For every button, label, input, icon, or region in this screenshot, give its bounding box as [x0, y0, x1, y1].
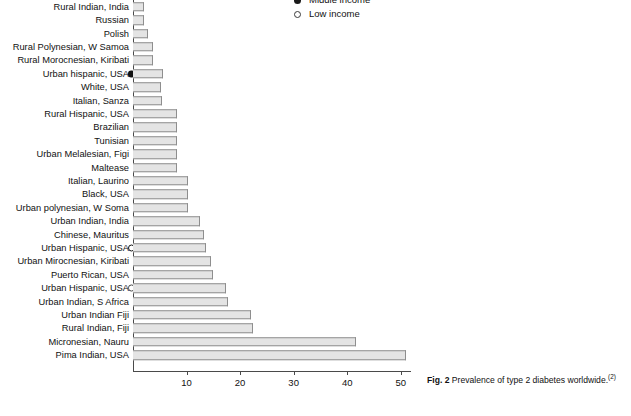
chart-row: Black, USA [0, 189, 420, 201]
x-axis-tick-label: 40 [342, 377, 353, 388]
x-axis-tick-label: 30 [288, 377, 299, 388]
chart-bar [133, 123, 177, 133]
chart-row: Urban Hispanic, USA [0, 242, 420, 254]
chart-bar [133, 82, 161, 92]
chart-row: Urban Indian Fiji [0, 309, 420, 321]
caption-reference: (2) [608, 373, 616, 380]
chart-row: Urban Indian, India [0, 215, 420, 227]
chart-bar [133, 149, 177, 159]
category-label: Urban hispanic, USA [43, 68, 129, 79]
chart-row: Urban hispanic, USA [0, 68, 420, 80]
category-label: Black, USA [82, 189, 129, 200]
chart-row: Urban Hispanic, USA [0, 282, 420, 294]
chart-bar [133, 270, 213, 280]
category-label: Rural Indian, India [54, 1, 129, 12]
category-label: Tunisian [94, 135, 129, 146]
caption-text: Prevalence of type 2 diabetes worldwide. [452, 375, 608, 385]
category-label: Urban Melalesian, Figi [37, 149, 130, 160]
category-label: Urban Mirocnesian, Kiribati [17, 256, 129, 267]
category-label: Urban Indian Fiji [61, 309, 129, 320]
figure-container: Middle income Low income Rural Indian, I… [0, 0, 631, 416]
category-label: Russian [95, 15, 129, 26]
chart-bar [133, 56, 153, 66]
bar-chart-plot-area: Rural Indian, IndiaRussianPolishRural Po… [0, 0, 420, 372]
chart-row: Micronesian, Nauru [0, 336, 420, 348]
category-label: Maltease [91, 162, 129, 173]
chart-bar [133, 15, 144, 25]
x-axis-line [133, 371, 411, 372]
chart-row: Rural Indian, India [0, 1, 420, 13]
chart-row: Urban Melalesian, Figi [0, 148, 420, 160]
chart-row: Italian, Sanza [0, 95, 420, 107]
category-label: Urban Indian, India [50, 216, 129, 227]
category-label: Rural Polynesian, W Samoa [13, 41, 129, 52]
chart-row: Urban polynesian, W Soma [0, 202, 420, 214]
category-label: Puerto Rican, USA [51, 269, 129, 280]
category-label: Pima Indian, USA [56, 350, 129, 361]
x-axis-tick [294, 371, 295, 375]
chart-row: Maltease [0, 162, 420, 174]
chart-row: Italian, Laurino [0, 175, 420, 187]
chart-row: Tunisian [0, 135, 420, 147]
chart-bar [133, 337, 356, 347]
chart-bar [133, 257, 211, 267]
chart-bar [133, 96, 162, 106]
chart-row: Puerto Rican, USA [0, 269, 420, 281]
chart-bar [133, 297, 228, 307]
chart-bar [133, 324, 253, 334]
category-label: Brazilian [93, 122, 129, 133]
chart-row: White, USA [0, 81, 420, 93]
category-label: Italian, Laurino [68, 175, 129, 186]
x-axis-tick [187, 371, 188, 375]
figure-caption: Fig. 2 Prevalence of type 2 diabetes wor… [427, 371, 627, 386]
category-label: Urban Hispanic, USA [41, 283, 129, 294]
x-axis-tick [240, 371, 241, 375]
x-axis-tick-label: 20 [235, 377, 246, 388]
chart-bar [133, 230, 204, 240]
category-label: Urban Indian, S Africa [39, 296, 129, 307]
chart-row: Polish [0, 28, 420, 40]
chart-bar [133, 163, 177, 173]
category-label: Rural Indian, Fiji [62, 323, 129, 334]
chart-row: Pima Indian, USA [0, 349, 420, 361]
chart-bar [133, 2, 144, 12]
chart-bar [133, 190, 188, 200]
chart-bar [133, 42, 153, 52]
chart-bar [133, 69, 163, 79]
category-label: Polish [104, 28, 129, 39]
category-label: Italian, Sanza [73, 95, 129, 106]
chart-bar [133, 109, 177, 119]
x-axis-tick-label: 50 [395, 377, 406, 388]
chart-row: Rural Indian, Fiji [0, 323, 420, 335]
category-label: Rural Hispanic, USA [44, 108, 129, 119]
chart-bar [133, 350, 406, 360]
chart-row: Russian [0, 14, 420, 26]
category-label: Rural Morocnesian, Kiribati [17, 55, 129, 66]
x-axis-tick-label: 10 [181, 377, 192, 388]
x-axis-tick [401, 371, 402, 375]
chart-bar [133, 243, 206, 253]
chart-bar [133, 29, 148, 39]
category-label: Chinese, Mauritus [54, 229, 129, 240]
chart-row: Rural Hispanic, USA [0, 108, 420, 120]
chart-row: Urban Mirocnesian, Kiribati [0, 256, 420, 268]
chart-row: Chinese, Mauritus [0, 229, 420, 241]
caption-figure-number: Fig. 2 [427, 375, 449, 385]
category-label: White, USA [81, 82, 129, 93]
chart-row: Rural Polynesian, W Samoa [0, 41, 420, 53]
chart-bar [133, 283, 226, 293]
chart-bar [133, 203, 188, 213]
chart-row: Brazilian [0, 122, 420, 134]
chart-bar [133, 310, 251, 320]
category-label: Urban polynesian, W Soma [16, 202, 129, 213]
x-axis-tick [347, 371, 348, 375]
category-label: Urban Hispanic, USA [41, 242, 129, 253]
category-label: Micronesian, Nauru [48, 336, 129, 347]
chart-row: Rural Morocnesian, Kiribati [0, 55, 420, 67]
chart-bar [133, 136, 177, 146]
chart-bar [133, 216, 200, 226]
chart-row: Urban Indian, S Africa [0, 296, 420, 308]
chart-bar [133, 176, 188, 186]
